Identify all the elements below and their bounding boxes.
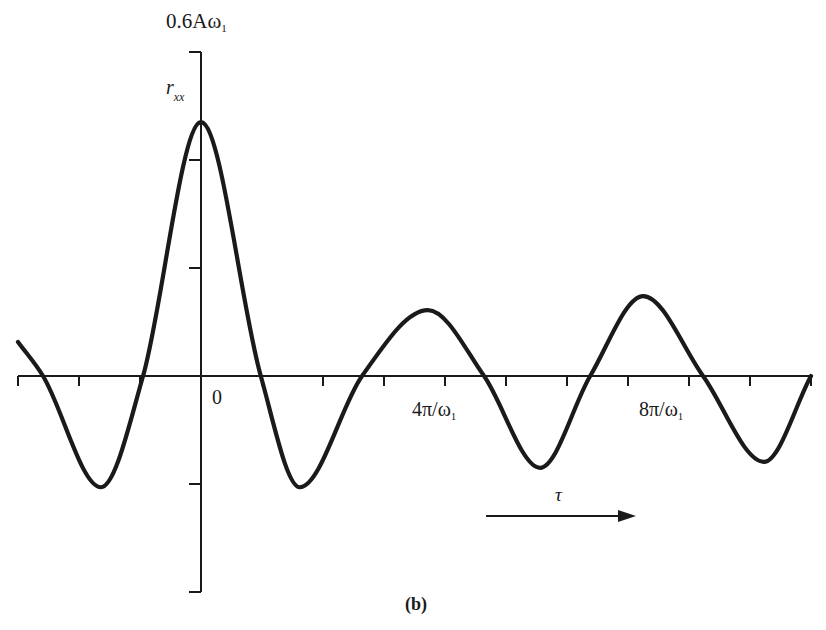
figure-caption: (b) xyxy=(405,594,427,615)
rxx-curve xyxy=(18,122,811,487)
autocorrelation-plot xyxy=(0,0,826,630)
axes xyxy=(18,52,811,592)
tau-label: τ xyxy=(555,484,562,506)
tau-arrow xyxy=(486,510,636,522)
y-axis-label: rxx xyxy=(166,76,184,103)
x-tick-label-8pi: 8π/ω1 xyxy=(639,398,683,421)
y-max-label: 0.6Aω1 xyxy=(166,9,227,34)
x-origin-label: 0 xyxy=(212,386,222,409)
x-tick-label-4pi: 4π/ω1 xyxy=(412,398,456,421)
